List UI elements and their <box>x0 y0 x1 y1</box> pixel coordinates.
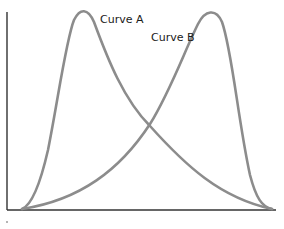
stray-dot <box>6 221 8 223</box>
curve-a-line <box>22 11 272 209</box>
curve-a-label: Curve A <box>100 13 144 26</box>
curve-b-line <box>22 12 272 209</box>
curve-b-label: Curve B <box>151 31 195 44</box>
chart-figure: Curve A Curve B <box>0 0 284 229</box>
